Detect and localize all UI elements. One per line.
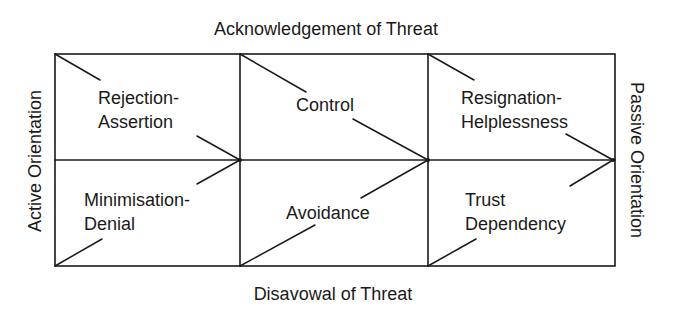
junction-dot bbox=[611, 158, 615, 162]
arrow-segment bbox=[240, 54, 306, 92]
cell-label-line: Denial bbox=[84, 212, 190, 236]
axis-label-disavowal: Disavowal of Threat bbox=[236, 284, 430, 304]
axis-label-passive-orientation: Passive Orientation bbox=[627, 82, 647, 238]
cell-resignation-helplessness: Resignation- Helplessness bbox=[461, 86, 568, 134]
junction-dot bbox=[426, 158, 430, 162]
arrow-segment bbox=[240, 225, 315, 266]
arrow-segment bbox=[428, 239, 476, 266]
arrow-segment bbox=[353, 119, 428, 160]
cell-control: Control bbox=[296, 93, 354, 117]
arrow-segment bbox=[361, 160, 428, 198]
arrow-segment bbox=[197, 136, 240, 160]
cell-label-line: Helplessness bbox=[461, 110, 568, 134]
cell-label-line: Assertion bbox=[98, 110, 179, 134]
cell-label-line: Dependency bbox=[465, 212, 566, 236]
coping-strategies-diagram: Acknowledgement of Threat Disavowal of T… bbox=[0, 0, 673, 309]
cell-rejection-assertion: Rejection- Assertion bbox=[98, 86, 179, 134]
cell-label-line: Trust bbox=[465, 188, 566, 212]
arrow-segment bbox=[197, 160, 240, 184]
arrow-segment bbox=[570, 160, 613, 186]
axis-label-acknowledgement: Acknowledgement of Threat bbox=[192, 19, 460, 39]
arrow-segment bbox=[566, 134, 613, 160]
cell-label-line: Avoidance bbox=[286, 201, 370, 225]
junction-dot bbox=[238, 158, 242, 162]
cell-minimisation-denial: Minimisation- Denial bbox=[84, 188, 190, 236]
cell-label-line: Resignation- bbox=[461, 86, 568, 110]
cell-label-line: Control bbox=[296, 93, 354, 117]
arrow-segment bbox=[428, 54, 474, 80]
arrow-segment bbox=[55, 239, 102, 266]
axis-label-active-orientation: Active Orientation bbox=[25, 90, 45, 232]
cell-label-line: Rejection- bbox=[98, 86, 179, 110]
cell-trust-dependency: Trust Dependency bbox=[465, 188, 566, 236]
cell-label-line: Minimisation- bbox=[84, 188, 190, 212]
arrow-segment bbox=[55, 54, 100, 80]
grid-lines bbox=[0, 0, 673, 309]
cell-avoidance: Avoidance bbox=[286, 201, 370, 225]
